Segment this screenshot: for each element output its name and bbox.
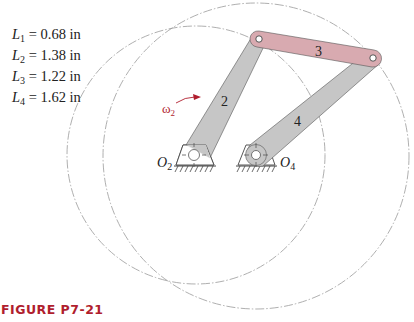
omega-2-label: ω2: [162, 101, 175, 118]
pin-a: [256, 36, 262, 42]
figure-caption: FIGURE P7-21: [1, 302, 104, 317]
pin-b: [370, 55, 376, 61]
o4-label: O4: [280, 155, 295, 172]
link-4-label: 4: [294, 114, 301, 129]
link-3-label: 3: [315, 44, 322, 59]
length-l1: L1 = 0.68 in: [12, 26, 81, 47]
link-lengths-list: L1 = 0.68 in L2 = 1.38 in L3 = 1.22 in L…: [12, 26, 81, 110]
o2-label: O2: [157, 155, 172, 172]
length-l4: L4 = 1.62 in: [12, 89, 81, 110]
link-4: [246, 52, 381, 166]
link-2-label: 2: [221, 94, 228, 109]
length-l3: L3 = 1.22 in: [12, 68, 81, 89]
omega-2-arrow-icon: [176, 94, 201, 103]
length-l2: L2 = 1.38 in: [12, 47, 81, 68]
